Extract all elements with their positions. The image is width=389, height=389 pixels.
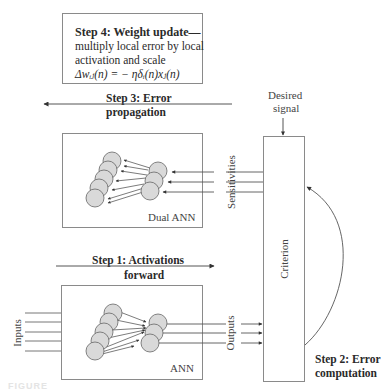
node bbox=[86, 189, 104, 207]
node bbox=[86, 342, 104, 360]
node bbox=[141, 182, 159, 200]
diagram-graphics bbox=[0, 0, 389, 389]
input-lines bbox=[25, 313, 61, 351]
dual-ann-nodes bbox=[86, 152, 167, 207]
node bbox=[141, 334, 159, 352]
step2-curve-arrow bbox=[305, 187, 343, 345]
ann-nodes bbox=[86, 304, 167, 360]
sensitivity-lines bbox=[163, 172, 263, 192]
output-lines bbox=[158, 324, 262, 343]
